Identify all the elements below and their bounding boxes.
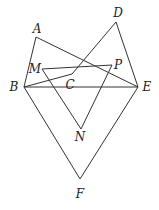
segment-BF <box>24 87 80 179</box>
segment-EF <box>80 87 138 179</box>
diagram-svg: ADMPCBENF <box>0 0 159 210</box>
point-label-M: M <box>28 62 42 76</box>
segment-PN <box>81 65 112 129</box>
point-label-P: P <box>113 58 123 72</box>
point-label-F: F <box>75 187 85 201</box>
point-label-C: C <box>65 78 74 92</box>
point-label-E: E <box>142 80 152 94</box>
point-label-D: D <box>112 6 123 20</box>
geometry-diagram: ADMPCBENF <box>0 0 159 210</box>
segment-DE <box>116 22 138 87</box>
point-label-N: N <box>74 130 86 144</box>
point-label-A: A <box>32 22 42 36</box>
point-label-B: B <box>9 80 19 94</box>
segment-MN <box>42 69 81 129</box>
